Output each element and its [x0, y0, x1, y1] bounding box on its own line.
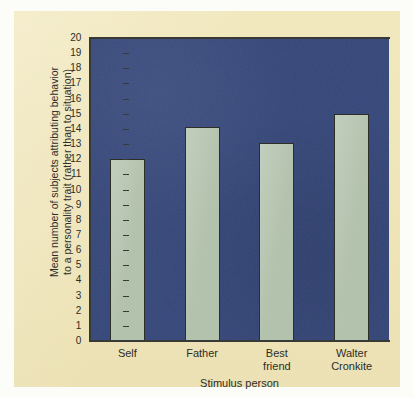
y-axis-tick-label: 0 — [59, 336, 81, 346]
chart-paper-panel: 20191817161514131211109876543210 Mean nu… — [14, 11, 400, 387]
y-axis-line — [89, 37, 91, 342]
y-axis-tick-mark — [123, 220, 129, 221]
y-axis-tick-mark — [123, 341, 129, 342]
x-axis-category-label: WalterCronkite — [307, 347, 397, 373]
y-axis-tick-mark — [123, 265, 129, 266]
y-axis-tick-mark — [123, 68, 129, 69]
y-axis-tick-mark — [123, 235, 129, 236]
y-axis-tick-mark — [123, 53, 129, 54]
bar — [334, 114, 369, 341]
y-axis-tick-mark — [123, 326, 129, 327]
y-axis-tick-mark — [123, 296, 129, 297]
figure-root: 20191817161514131211109876543210 Mean nu… — [0, 0, 414, 398]
x-axis-title: Stimulus person — [90, 377, 389, 389]
y-axis-tick-mark — [123, 159, 129, 160]
y-axis-title: Mean number of subjects attributing beha… — [48, 22, 74, 322]
y-axis-tick-mark — [123, 129, 129, 130]
y-axis-title-line-2: to a personality trait (rather than to s… — [61, 22, 74, 322]
y-axis-title-line-1: Mean number of subjects attributing beha… — [48, 22, 61, 322]
y-axis-tick-mark — [123, 38, 129, 39]
bar — [259, 143, 294, 341]
x-axis-line — [89, 340, 390, 342]
bar — [185, 127, 220, 341]
y-axis-tick-mark — [123, 144, 129, 145]
y-axis-tick-mark — [123, 311, 129, 312]
y-axis-tick-mark — [123, 280, 129, 281]
y-axis-tick-mark — [123, 190, 129, 191]
x-axis-category-label-line: Cronkite — [307, 360, 397, 373]
y-axis-tick-label: 1 — [59, 321, 81, 331]
y-axis-tick-mark — [123, 205, 129, 206]
y-axis-tick-mark — [123, 250, 129, 251]
y-axis-tick-mark — [123, 174, 129, 175]
x-axis-category-label-line: Walter — [307, 347, 397, 360]
y-axis-tick-mark — [123, 99, 129, 100]
plot-top-border — [89, 37, 390, 39]
y-axis-tick-mark — [123, 83, 129, 84]
y-axis-tick-mark — [123, 114, 129, 115]
